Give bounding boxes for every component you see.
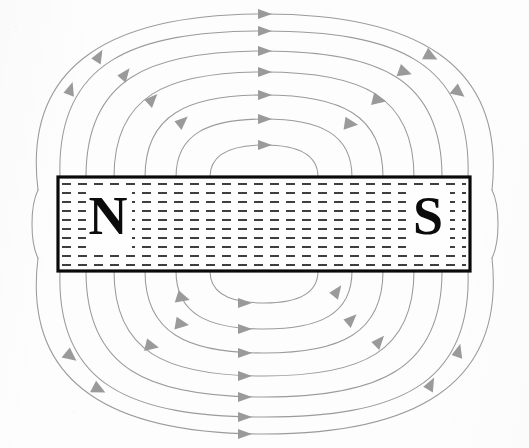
bar-magnet: N S xyxy=(58,177,470,271)
field-line-top-3 xyxy=(145,95,383,177)
arrow-icon-top-r6 xyxy=(421,48,440,66)
arrow-icon-top-c5 xyxy=(258,46,272,56)
arrow-icon-top-l5 xyxy=(117,68,134,84)
arrow-icon-top-r7 xyxy=(449,84,468,103)
arrow-icon-bottom-c3 xyxy=(238,348,252,358)
arrow-icon-bottom-c6 xyxy=(238,412,252,422)
field-line-bottom-4 xyxy=(114,271,414,376)
arrow-icon-top-l7 xyxy=(62,82,80,100)
field-line-bottom-6 xyxy=(60,271,468,417)
arrow-icon-bottom-c2 xyxy=(238,324,252,334)
field-line-top-7 xyxy=(36,14,493,190)
arrow-icon-top-r4 xyxy=(370,92,387,109)
field-line-bottom-3 xyxy=(145,271,383,353)
arrow-icon-top-c4 xyxy=(258,67,272,77)
field-line-bottom-2 xyxy=(176,271,352,329)
field-diagram-svg: N S xyxy=(0,0,529,448)
field-line-right-7 xyxy=(492,190,498,258)
arrow-icon-bottom-l3 xyxy=(173,317,190,333)
arrow-icon-bottom-r4 xyxy=(371,336,388,352)
arrow-icon-bottom-l1 xyxy=(174,290,192,307)
south-pole-label: S xyxy=(413,186,443,246)
arrow-icon-bottom-l4 xyxy=(143,338,160,355)
arrow-icon-bottom-r7 xyxy=(450,344,468,362)
field-lines-top xyxy=(36,14,493,190)
field-line-top-2 xyxy=(176,119,352,177)
arrow-icon-top-c7 xyxy=(258,9,272,19)
arrow-icon-bottom-r6 xyxy=(422,378,440,396)
north-pole-label: N xyxy=(89,186,128,246)
field-line-top-4 xyxy=(114,72,414,177)
field-lines-right-connectors xyxy=(468,177,498,271)
field-line-bottom-7 xyxy=(36,258,493,434)
arrow-icon-bottom-c5 xyxy=(238,392,252,402)
arrow-icon-bottom-r3 xyxy=(343,314,359,329)
arrow-icon-bottom-c1 xyxy=(238,298,252,308)
magnetic-field-diagram: N S xyxy=(0,0,529,448)
arrow-icon-top-c1 xyxy=(258,140,272,150)
field-line-left-7 xyxy=(32,190,38,258)
arrow-icon-top-l3 xyxy=(174,116,190,131)
field-lines-bottom xyxy=(36,258,493,434)
arrow-icon-top-c6 xyxy=(258,26,272,36)
arrow-icon-bottom-c4 xyxy=(238,371,252,381)
arrow-icon-bottom-c7 xyxy=(238,429,252,439)
arrow-icon-top-c3 xyxy=(258,90,272,100)
field-line-bottom-5 xyxy=(86,271,442,397)
arrow-icon-bottom-r1 xyxy=(328,285,346,302)
arrow-icon-top-c2 xyxy=(258,114,272,124)
arrow-icon-top-r3 xyxy=(343,117,360,133)
arrow-icon-top-l4 xyxy=(144,94,161,109)
field-line-top-1 xyxy=(210,145,318,177)
arrow-icon-bottom-l7 xyxy=(61,348,80,367)
field-lines-left-connectors xyxy=(32,177,60,271)
field-line-bottom-1 xyxy=(210,271,318,303)
